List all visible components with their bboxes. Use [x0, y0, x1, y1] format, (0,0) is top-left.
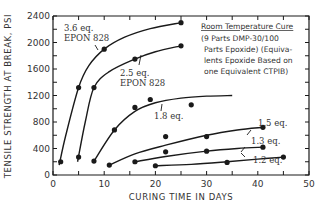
series-label: 1.8 eq. — [154, 111, 183, 121]
label-leader-line — [241, 153, 245, 157]
x-axis-title: CURING TIME IN DAYS — [129, 192, 233, 202]
x-tick-label: 40 — [252, 179, 264, 189]
data-point — [132, 105, 137, 110]
data-point — [163, 134, 168, 139]
data-point — [76, 85, 81, 90]
y-tick-label: 1200 — [27, 91, 50, 101]
series-curve — [59, 23, 181, 165]
series-label: EPON 828 — [64, 33, 109, 43]
data-point — [132, 159, 137, 164]
data-point — [132, 56, 137, 61]
annotation-line-1: (9 Parts DMP-30/100 — [201, 34, 279, 43]
annotation-box: Room Temperature Cure (9 Parts DMP-30/10… — [201, 22, 294, 76]
y-tick-label: 2400 — [27, 11, 50, 21]
y-tick-label: 1600 — [27, 64, 50, 74]
data-point — [204, 149, 209, 154]
x-tick-label: 50 — [303, 179, 315, 189]
annotation-line-2: Parts Epoxide) (Equiva- — [204, 45, 293, 54]
data-point — [189, 102, 194, 107]
data-point — [153, 163, 158, 168]
annotation-line-4: one Equivalent CTPIB) — [204, 67, 288, 76]
x-tick-label: 0 — [50, 179, 56, 189]
data-point — [91, 85, 96, 90]
tensile-strength-chart: 04008001200160020002400 01020304050 3.6 … — [0, 0, 329, 213]
data-point — [204, 134, 209, 139]
label-leader-line — [95, 45, 98, 50]
data-point — [163, 149, 168, 154]
series-label: 1.3 eq. — [251, 136, 280, 146]
data-point — [112, 127, 117, 132]
x-tick-label: 20 — [150, 179, 162, 189]
data-point — [178, 20, 183, 25]
annotation-line-3: lents Epoxide Based on — [204, 56, 293, 65]
y-tick-label: 2000 — [27, 38, 50, 48]
series-curve — [109, 127, 263, 165]
series-curve — [78, 46, 181, 162]
x-tick-label: 10 — [98, 179, 110, 189]
series-label: EPON 828 — [120, 78, 165, 88]
y-tick-label: 400 — [33, 144, 50, 154]
series-curve — [135, 147, 263, 162]
data-point — [148, 97, 153, 102]
data-point — [58, 159, 63, 164]
label-leader-line — [161, 104, 162, 111]
x-tick-label: 30 — [201, 179, 213, 189]
data-point — [107, 162, 112, 167]
data-point — [91, 158, 96, 163]
data-point — [102, 47, 107, 52]
label-leader-line — [247, 130, 251, 135]
data-point — [178, 43, 183, 48]
series-label: 1.5 eq. — [258, 118, 287, 128]
data-point — [224, 160, 229, 165]
y-tick-label: 800 — [33, 117, 50, 127]
data-point — [76, 155, 81, 160]
series-label: 1.2 eq. — [253, 155, 282, 165]
series-label: 2.5 eq. — [120, 68, 149, 78]
annotation-title: Room Temperature Cure — [201, 22, 294, 31]
y-axis-title: TENSILE STRENGTH AT BREAK, PSI — [3, 14, 13, 179]
series-label: 3.6 eq. — [64, 23, 93, 33]
